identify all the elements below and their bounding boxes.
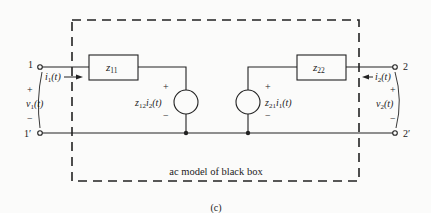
dependent-source-right-icon xyxy=(236,90,260,114)
terminal-1-prime-label: 1′ xyxy=(24,128,31,139)
black-box-boundary xyxy=(72,20,359,181)
terminal-2-prime-label: 2′ xyxy=(403,128,410,139)
terminal-2 xyxy=(393,65,398,70)
port1-current-arrow-icon xyxy=(76,75,83,80)
terminal-2-label: 2 xyxy=(403,61,408,72)
port1-voltage-label: v1(t) xyxy=(26,98,44,111)
wire-right-source-to-z22 xyxy=(248,67,297,90)
port2-voltage-label: v2(t) xyxy=(376,98,394,111)
right-source-plus: + xyxy=(265,81,271,92)
junction-dot-right xyxy=(246,131,250,135)
port2-current-label: i2(t) xyxy=(375,71,391,84)
figure-caption: (c) xyxy=(210,202,221,213)
black-box-label: ac model of black box xyxy=(169,166,263,177)
right-source-minus: − xyxy=(265,110,271,121)
junction-dot-left xyxy=(184,131,188,135)
right-source-label: z21i1(t) xyxy=(264,97,292,110)
port2-voltage-plus: + xyxy=(390,84,396,95)
port1-voltage-minus: − xyxy=(27,113,33,124)
port2-voltage-minus: − xyxy=(390,113,396,124)
terminal-1 xyxy=(38,65,43,70)
dependent-source-left-icon xyxy=(174,90,198,114)
left-source-label: z12i2(t) xyxy=(134,97,162,110)
z11-label: z11 xyxy=(105,61,118,75)
terminal-2-prime xyxy=(393,131,398,136)
terminal-1-label: 1 xyxy=(28,59,33,70)
wire-z11-to-left-source xyxy=(138,67,186,90)
z22-label: z22 xyxy=(312,61,325,75)
port1-current-label: i1(t) xyxy=(45,71,61,84)
left-source-minus: − xyxy=(163,110,169,121)
port1-voltage-plus: + xyxy=(27,84,33,95)
terminal-1-prime xyxy=(38,131,43,136)
two-port-circuit-diagram: z11 z22 + − z12i2(t) + − z21i1(t) 1 1′ 2… xyxy=(0,0,431,213)
left-source-plus: + xyxy=(163,81,169,92)
